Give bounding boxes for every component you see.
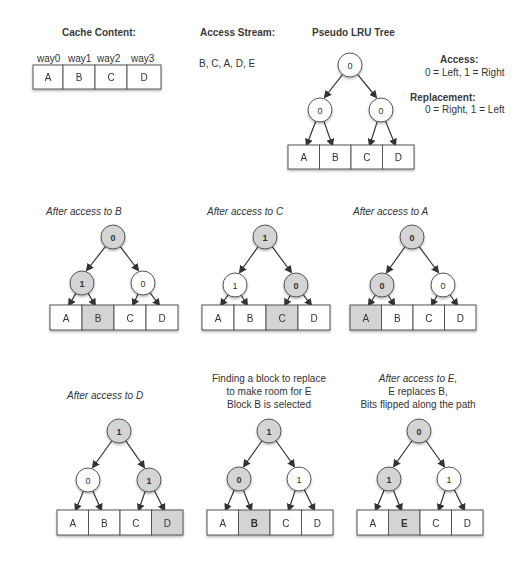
after-e-right-node: 1 <box>437 467 461 491</box>
find-replacement-arrow-right-d <box>304 490 314 510</box>
after-c-left-node-bit: 1 <box>232 281 237 291</box>
after-d-cell-label-2: C <box>132 518 139 529</box>
after-b-cell-label-2: C <box>126 313 133 324</box>
after-e-arrow-right-c <box>439 490 445 510</box>
after-a-arrow-right-c <box>432 295 437 305</box>
after-d-root-node-bit: 1 <box>116 427 121 437</box>
after-e-right-node-bit: 1 <box>446 475 451 485</box>
after-c-arrow-root-right <box>272 247 291 272</box>
after-b-left-node: 1 <box>70 271 94 295</box>
after-a-right-node-bit: 0 <box>440 281 445 291</box>
cache-content-row: ABCD <box>33 65 161 89</box>
after-e-left-node-bit: 1 <box>386 475 391 485</box>
after-b-arrow-right-d <box>150 293 159 305</box>
after-b-cell-label-3: D <box>158 313 165 324</box>
initial-arrow-right-d <box>386 121 396 145</box>
find-replacement-left-node: 0 <box>227 467 251 491</box>
initial-arrow-root-right <box>358 74 376 97</box>
find-replacement-right-node-bit: 1 <box>296 475 301 485</box>
after-b-arrow-root-left <box>87 246 106 270</box>
find-replacement-arrow-root-right <box>276 441 294 466</box>
after-c-arrow-right-c <box>285 296 290 305</box>
after-c-arrow-right-d <box>303 295 311 305</box>
initial-left-node-bit: 0 <box>317 106 322 116</box>
after-c-blocks: ABCD <box>202 305 330 330</box>
after-d-blocks: ABCD <box>57 510 183 535</box>
after-b-root-node-bit: 0 <box>110 233 115 243</box>
after-d-left-node: 0 <box>76 468 100 492</box>
after-e-cell-label-3: D <box>464 518 471 529</box>
after-a-arrow-root-right <box>419 247 438 272</box>
after-c-root-node: 1 <box>253 225 277 249</box>
after-a-cell-label-3: D <box>457 313 464 324</box>
after-a-blocks: ABCD <box>350 305 476 330</box>
after-b-arrow-right-c <box>133 294 138 305</box>
initial-cell-label-0: A <box>300 152 307 163</box>
after-b-arrow-left-a <box>69 293 76 305</box>
after-b-right-node: 0 <box>131 271 155 295</box>
after-d-arrow-right-c <box>139 491 145 510</box>
after-a-arrow-right-d <box>450 295 457 305</box>
after-a-cell-label-0: A <box>362 313 369 324</box>
initial-arrow-left-b <box>324 121 332 145</box>
find-replacement-right-node: 1 <box>287 467 311 491</box>
cache-cell-label-1: B <box>76 72 83 83</box>
after-e-arrow-right-d <box>454 490 464 510</box>
after-c-left-node: 1 <box>223 273 247 297</box>
tree-panel-after-e: 011AECD <box>357 419 483 535</box>
after-b-blocks: ABCD <box>50 305 178 330</box>
find-replacement-left-node-bit: 0 <box>236 475 241 485</box>
cache-cell-label-3: D <box>140 72 147 83</box>
initial-right-node-bit: 0 <box>378 106 383 116</box>
tree-panel-after-c: 110ABCD <box>202 225 330 330</box>
initial-blocks: ABCD <box>288 145 414 169</box>
after-d-arrow-left-b <box>93 491 101 510</box>
after-a-arrow-left-a <box>369 295 376 305</box>
find-replacement-arrow-left-b <box>243 490 251 510</box>
after-b-arrow-root-right <box>120 247 138 270</box>
after-a-right-node: 0 <box>431 273 455 297</box>
after-d-arrow-root-right <box>126 441 144 467</box>
initial-arrow-right-c <box>370 121 378 145</box>
after-e-arrow-root-right <box>426 441 444 466</box>
after-c-cell-label-2: C <box>278 313 285 324</box>
after-c-right-node-bit: 0 <box>293 281 298 291</box>
after-a-left-node: 0 <box>370 273 394 297</box>
after-a-root-node: 0 <box>400 225 424 249</box>
initial-arrow-root-left <box>325 74 343 97</box>
initial-arrow-left-a <box>307 121 316 145</box>
find-replacement-root-node: 1 <box>257 419 281 443</box>
after-b-arrow-left-b <box>88 293 95 305</box>
after-e-root-node-bit: 0 <box>416 427 421 437</box>
find-replacement-cell-label-0: A <box>219 518 226 529</box>
initial-root-node-bit: 0 <box>347 61 352 71</box>
after-d-root-node: 1 <box>107 419 131 443</box>
cache-cell-label-2: C <box>107 72 114 83</box>
find-replacement-cell-label-2: C <box>282 518 289 529</box>
after-b-right-node-bit: 0 <box>140 279 145 289</box>
after-b-cell-label-0: A <box>63 313 70 324</box>
after-c-cell-label-3: D <box>310 313 317 324</box>
after-a-arrow-left-b <box>388 295 394 305</box>
tree-panel-after-a: 000ABCD <box>350 225 476 330</box>
after-a-arrow-root-left <box>387 247 405 272</box>
tree-panel-initial: 000ABCD <box>288 53 414 169</box>
plru-diagram-canvas: ABCD 000ABCD010ABCD110ABCD000ABCD101ABCD… <box>0 0 532 561</box>
after-e-blocks: AECD <box>357 510 483 535</box>
after-e-arrow-left-b <box>393 490 401 510</box>
after-e-cell-label-1: E <box>401 518 408 529</box>
find-replacement-cell-label-3: D <box>314 518 321 529</box>
tree-panel-after-b: 010ABCD <box>50 225 178 330</box>
after-c-right-node: 0 <box>284 273 308 297</box>
after-d-left-node-bit: 0 <box>85 476 90 486</box>
after-d-cell-label-3: D <box>164 518 171 529</box>
after-c-arrow-left-b <box>241 295 247 305</box>
after-c-cell-label-1: B <box>247 313 254 324</box>
after-e-left-node: 1 <box>377 467 401 491</box>
after-e-arrow-left-a <box>376 490 385 510</box>
after-d-arrow-root-left <box>93 441 112 467</box>
find-replacement-blocks: ABCD <box>207 510 333 535</box>
after-c-root-node-bit: 1 <box>262 233 267 243</box>
initial-right-node: 0 <box>369 98 393 122</box>
after-d-cell-label-1: B <box>101 518 108 529</box>
